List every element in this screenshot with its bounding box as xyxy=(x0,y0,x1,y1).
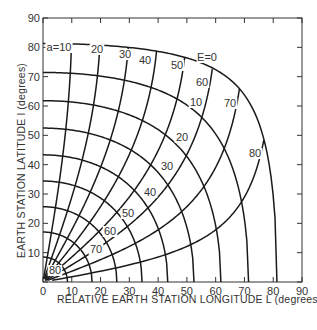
curve-label: 20 xyxy=(91,43,103,55)
y-tick-label: 80 xyxy=(28,41,40,53)
chart-canvas: 0102030405060708090 102030405060708090 a… xyxy=(0,0,317,330)
curve-label: 80 xyxy=(49,264,61,276)
elevation-contour-40 xyxy=(43,155,168,282)
curve-label: 60 xyxy=(196,76,208,88)
curve-label: 10 xyxy=(190,96,202,108)
x-axis-title: RELATIVE EARTH STATION LONGITUDE L (degr… xyxy=(57,293,317,305)
curve-label: E=0 xyxy=(197,51,217,63)
y-tick-label: 90 xyxy=(28,12,40,24)
y-tick-labels: 102030405060708090 xyxy=(28,12,40,259)
azimuth-line-10 xyxy=(44,44,72,278)
curve-label: 40 xyxy=(144,186,156,198)
curve-label: 50 xyxy=(122,207,134,219)
y-tick-label: 40 xyxy=(28,159,40,171)
y-tick-label: 60 xyxy=(28,100,40,112)
y-tick-label: 30 xyxy=(28,188,40,200)
satellite-visibility-chart: 0102030405060708090 102030405060708090 a… xyxy=(0,0,317,330)
y-tick-label: 70 xyxy=(28,71,40,83)
curve-label: a=10 xyxy=(47,41,72,53)
curve-label: 70 xyxy=(90,243,102,255)
curve-label: 60 xyxy=(104,225,116,237)
curve-label: 80 xyxy=(249,147,261,159)
curve-label: 20 xyxy=(176,131,188,143)
y-axis-title: EARTH STATION LATITUDE l (degrees) xyxy=(15,63,27,258)
curve-label: 70 xyxy=(224,97,236,109)
y-tick-label: 20 xyxy=(28,217,40,229)
y-tick-label: 10 xyxy=(28,247,40,259)
x-tick-label: 0 xyxy=(40,285,46,297)
elevation-contour-20 xyxy=(43,101,221,282)
elevation-contour-30 xyxy=(43,128,194,282)
curve-label: 30 xyxy=(119,48,131,60)
curve-label: 30 xyxy=(161,160,173,172)
axis-ticks xyxy=(43,18,302,282)
curve-label: 50 xyxy=(171,59,183,71)
y-tick-label: 50 xyxy=(28,129,40,141)
elevation-contour-10 xyxy=(43,72,249,282)
plot-frame xyxy=(43,18,302,282)
curve-label: 40 xyxy=(139,54,151,66)
